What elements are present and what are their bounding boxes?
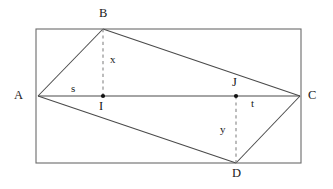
segment-ad [38,96,236,163]
point-dot-j [234,94,238,98]
measure-label-t: t [251,98,254,109]
point-label-d: D [232,167,241,180]
measure-label-y: y [220,124,226,135]
point-label-b: B [99,7,107,20]
segment-bc [103,29,300,96]
geometry-diagram: ABCDIJxyst [0,0,333,189]
point-label-j: J [232,76,237,89]
measure-label-x: x [110,54,116,65]
geometry-canvas [0,0,333,189]
point-label-i: I [99,100,103,113]
segment-dc [236,96,300,163]
solid-segments-group [38,29,300,163]
point-dot-i [101,94,105,98]
point-label-c: C [308,89,316,102]
measure-label-s: s [71,83,75,94]
point-label-a: A [14,89,23,102]
